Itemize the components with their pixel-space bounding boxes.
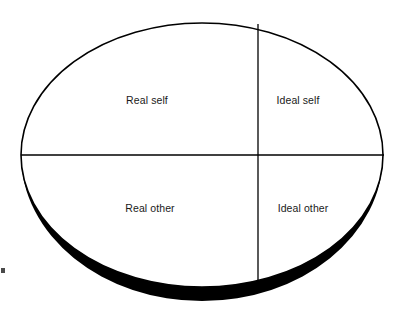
quadrant-ellipse-graphic	[0, 0, 398, 324]
scan-artifact-speck	[1, 268, 5, 273]
diagram-canvas: Real self Ideal self Real other Ideal ot…	[0, 0, 398, 324]
